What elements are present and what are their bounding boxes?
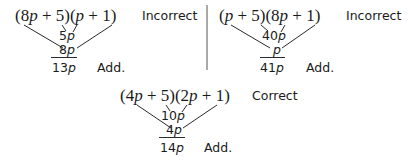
outer-term: 4p bbox=[166, 122, 182, 137]
factoring-trials-figure: (8p + 5)(p + 1) Incorrect 5p 8p 13p Add.… bbox=[0, 0, 408, 160]
outer-product-line bbox=[183, 105, 217, 128]
trial-expression: (p + 5)(8p + 1) bbox=[219, 6, 320, 25]
verdict-label: Incorrect bbox=[346, 8, 401, 23]
inner-term: 5p bbox=[59, 28, 75, 43]
outer-term: 8p bbox=[59, 42, 75, 57]
outer-product-line bbox=[24, 25, 63, 48]
sum-term: 41p bbox=[260, 60, 284, 75]
sum-term: 13p bbox=[52, 60, 76, 75]
trial-expression: (4p + 5)(2p + 1) bbox=[120, 86, 230, 105]
add-label: Add. bbox=[97, 60, 125, 75]
inner-term: 40p bbox=[262, 28, 286, 43]
verdict-label: Correct bbox=[252, 88, 298, 103]
trial-panel-1: (8p + 5)(p + 1) Incorrect 5p 8p 13p Add. bbox=[15, 6, 197, 75]
add-label: Add. bbox=[306, 60, 334, 75]
verdict-label: Incorrect bbox=[142, 8, 197, 23]
outer-product-line bbox=[282, 25, 315, 48]
trial-expression: (8p + 5)(p + 1) bbox=[15, 6, 116, 25]
outer-term: p bbox=[272, 42, 281, 57]
sum-term: 14p bbox=[160, 140, 184, 155]
trial-panel-3: (4p + 5)(2p + 1) Correct 10p 4p 14p Add. bbox=[120, 86, 298, 155]
add-label: Add. bbox=[204, 140, 232, 155]
outer-product-line bbox=[77, 25, 112, 48]
inner-term: 10p bbox=[161, 108, 185, 123]
trial-panel-2: (p + 5)(8p + 1) Incorrect 40p p 41p Add. bbox=[219, 6, 401, 75]
